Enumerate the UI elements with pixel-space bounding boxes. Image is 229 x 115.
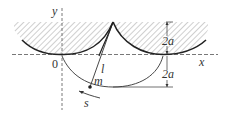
origin-label: 0 [52,57,58,71]
pendulum-cycloid-path [62,56,163,87]
mass-label: m [94,74,103,88]
arc-length-label: s [84,96,89,110]
cycloid-pendulum-diagram: y x 0 l m s 2a 2a [0,0,229,115]
x-axis-label: x [198,55,205,69]
y-axis-label: y [51,4,58,18]
mass-point [88,85,92,89]
lower-height-label: 2a [162,67,174,81]
upper-height-label: 2a [162,34,174,48]
